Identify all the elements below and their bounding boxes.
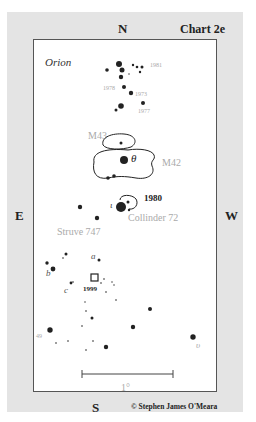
star-map-graphics (0, 0, 256, 422)
scale-bar (82, 370, 173, 378)
stars (45, 61, 195, 351)
m43-outline (103, 134, 135, 149)
1999-marker (91, 274, 98, 281)
